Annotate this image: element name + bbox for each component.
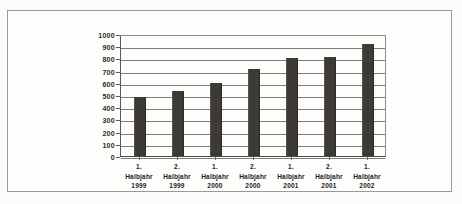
y-axis-tick-mark bbox=[116, 120, 120, 121]
x-axis-category-line: 1999 bbox=[158, 181, 196, 191]
gridline bbox=[121, 60, 385, 61]
x-axis-tick-mark bbox=[215, 157, 216, 160]
x-axis-category-line: Halbjahr bbox=[120, 172, 158, 182]
x-axis-category-line: Halbjahr bbox=[272, 172, 310, 182]
y-axis-tick-label: 700 bbox=[68, 69, 115, 76]
x-axis-category-line: 2002 bbox=[348, 181, 386, 191]
x-axis-category-label: 1.Halbjahr1999 bbox=[120, 162, 158, 191]
y-axis-tick-labels: 10009008007006005004003002001000 bbox=[68, 35, 115, 157]
x-axis-category-label: 2.Halbjahr1999 bbox=[158, 162, 196, 191]
bar[interactable] bbox=[324, 57, 336, 156]
y-axis-tick-label: 1000 bbox=[68, 32, 115, 39]
x-axis-category-label: 1.Halbjahr2001 bbox=[272, 162, 310, 191]
y-axis-tick-mark bbox=[116, 35, 120, 36]
y-axis-tick-mark bbox=[116, 47, 120, 48]
x-axis-category-line: 1. bbox=[120, 162, 158, 172]
y-axis-tick-mark bbox=[116, 84, 120, 85]
y-axis-tick-mark bbox=[116, 96, 120, 97]
y-axis-tick-mark bbox=[116, 145, 120, 146]
y-axis-tick-label: 800 bbox=[68, 56, 115, 63]
y-axis-tick-label: 300 bbox=[68, 117, 115, 124]
x-axis-category-line: 2000 bbox=[234, 181, 272, 191]
x-axis-tick-mark bbox=[177, 157, 178, 160]
x-axis-tick-mark bbox=[367, 157, 368, 160]
x-axis-category-line: 1. bbox=[272, 162, 310, 172]
y-axis-tick-label: 600 bbox=[68, 81, 115, 88]
x-axis-category-line: 2001 bbox=[272, 181, 310, 191]
y-axis-tick-mark bbox=[116, 72, 120, 73]
x-axis-category-line: Halbjahr bbox=[234, 172, 272, 182]
x-axis-tick-mark bbox=[139, 157, 140, 160]
x-axis-category-line: Halbjahr bbox=[348, 172, 386, 182]
x-axis-category-label: 1.Halbjahr2002 bbox=[348, 162, 386, 191]
y-axis-tick-label: 900 bbox=[68, 44, 115, 51]
y-axis-tick-label: 0 bbox=[68, 154, 115, 161]
bar[interactable] bbox=[248, 69, 260, 156]
bar[interactable] bbox=[210, 83, 222, 156]
x-axis-category-label: 2.Halbjahr2001 bbox=[310, 162, 348, 191]
x-axis-category-line: 2000 bbox=[196, 181, 234, 191]
x-axis-category-line: Halbjahr bbox=[158, 172, 196, 182]
x-axis-category-line: 2001 bbox=[310, 181, 348, 191]
y-axis-tick-label: 200 bbox=[68, 130, 115, 137]
gridline bbox=[121, 48, 385, 49]
x-axis-category-line: 2. bbox=[234, 162, 272, 172]
x-axis-tick-mark bbox=[253, 157, 254, 160]
figure-frame: 10009008007006005004003002001000 1.Halbj… bbox=[7, 10, 452, 192]
x-axis-category-labels: 1.Halbjahr19992.Halbjahr19991.Halbjahr20… bbox=[120, 162, 386, 202]
x-axis-category-line: 1999 bbox=[120, 181, 158, 191]
y-axis-tick-label: 400 bbox=[68, 105, 115, 112]
bar[interactable] bbox=[362, 44, 374, 156]
bar[interactable] bbox=[286, 58, 298, 156]
y-axis-tick-mark bbox=[116, 157, 120, 158]
x-axis-category-label: 2.Halbjahr2000 bbox=[234, 162, 272, 191]
y-axis-tick-mark bbox=[116, 59, 120, 60]
bar[interactable] bbox=[172, 91, 184, 156]
y-axis-tick-mark bbox=[116, 133, 120, 134]
x-axis-category-line: 2. bbox=[158, 162, 196, 172]
x-axis-tick-mark bbox=[291, 157, 292, 160]
y-axis-tick-label: 500 bbox=[68, 93, 115, 100]
x-axis-category-line: Halbjahr bbox=[310, 172, 348, 182]
x-axis-category-label: 1.Halbjahr2000 bbox=[196, 162, 234, 191]
y-axis-tick-mark bbox=[116, 108, 120, 109]
x-axis-category-line: 2. bbox=[310, 162, 348, 172]
plot-area bbox=[120, 35, 386, 157]
x-axis-category-line: 1. bbox=[348, 162, 386, 172]
bar[interactable] bbox=[134, 97, 146, 156]
chart-screenshot: 10009008007006005004003002001000 1.Halbj… bbox=[0, 0, 462, 204]
x-axis-category-line: 1. bbox=[196, 162, 234, 172]
x-axis-tick-mark bbox=[329, 157, 330, 160]
y-axis-tick-label: 100 bbox=[68, 142, 115, 149]
x-axis-category-line: Halbjahr bbox=[196, 172, 234, 182]
